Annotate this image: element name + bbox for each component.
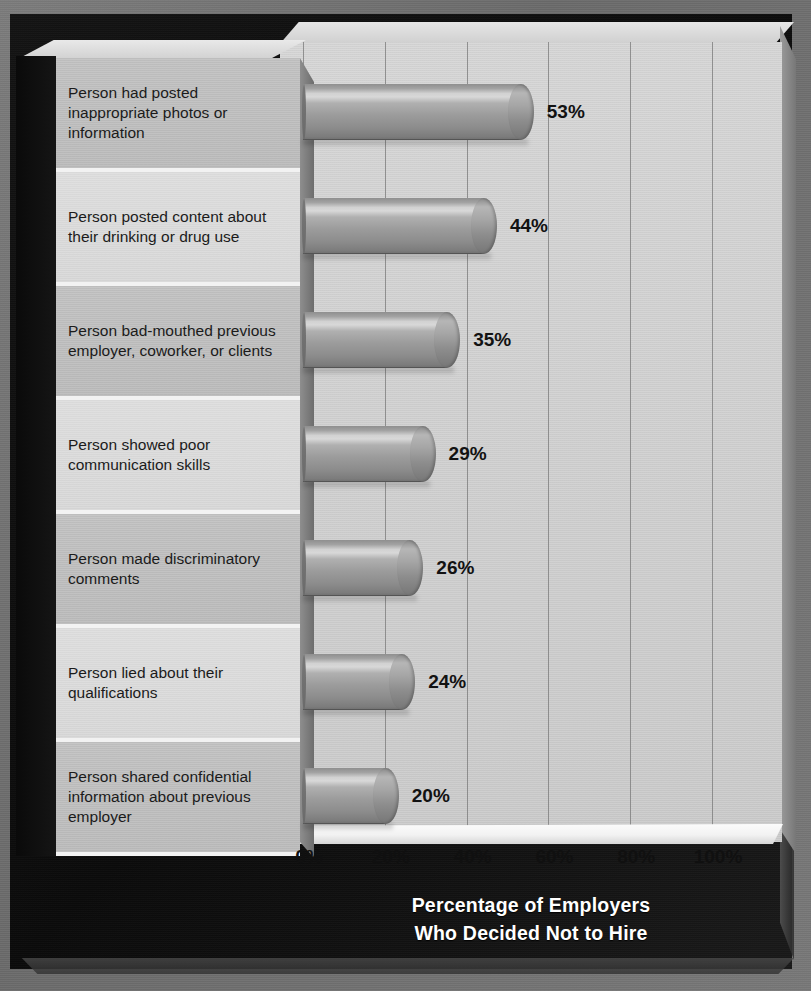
bar — [303, 426, 436, 482]
category-label-row: Person had posted inappropriate photos o… — [56, 58, 300, 172]
category-label-row: Person posted content about their drinki… — [56, 172, 300, 286]
bar — [303, 768, 399, 824]
bar-value-label: 20% — [412, 785, 450, 807]
gridline-100 — [712, 42, 713, 842]
board-bottom-bevel — [14, 958, 794, 974]
bar-body — [303, 654, 402, 710]
x-tick-label: 20% — [372, 846, 410, 868]
x-tick-label: 40% — [454, 846, 492, 868]
x-tick-label: 100% — [694, 846, 743, 868]
category-label-panel: Person had posted inappropriate photos o… — [56, 58, 300, 856]
category-label-row: Person shared confidential information a… — [56, 742, 300, 856]
bar-end-cap — [508, 84, 534, 140]
gridline-80 — [630, 42, 631, 842]
chart-title-line-1: Percentage of Employers — [280, 892, 782, 920]
bar-body — [303, 426, 423, 482]
category-label-text: Person had posted inappropriate photos o… — [68, 83, 290, 143]
bar-left-edge — [302, 426, 306, 482]
category-label-text: Person shared confidential information a… — [68, 767, 290, 827]
chart-title: Percentage of Employers Who Decided Not … — [280, 892, 782, 947]
bar — [303, 654, 415, 710]
bar-left-edge — [302, 540, 306, 596]
bar-left-edge — [302, 654, 306, 710]
bar-end-cap — [389, 654, 415, 710]
bar-body — [303, 198, 484, 254]
bar-value-label: 24% — [428, 671, 466, 693]
bar-left-edge — [302, 312, 306, 368]
bar — [303, 84, 534, 140]
x-tick-label: 80% — [617, 846, 655, 868]
category-label-text: Person showed poor communication skills — [68, 435, 290, 475]
bar-left-edge — [302, 84, 306, 140]
bar-body — [303, 84, 521, 140]
category-label-text: Person posted content about their drinki… — [68, 207, 290, 247]
chart-title-line-2: Who Decided Not to Hire — [280, 920, 782, 948]
x-tick-label: 60% — [535, 846, 573, 868]
category-label-row: Person made discriminatory comments — [56, 514, 300, 628]
bar-body — [303, 540, 410, 596]
category-label-text: Person bad-mouthed previous employer, co… — [68, 321, 290, 361]
bar-end-cap — [397, 540, 423, 596]
bar-end-cap — [410, 426, 436, 482]
plot-top-bevel — [266, 22, 794, 44]
plot-right-bevel — [780, 26, 796, 854]
bar — [303, 198, 497, 254]
bar-value-label: 35% — [473, 329, 511, 351]
category-label-row: Person lied about their qualifications — [56, 628, 300, 742]
bar-left-edge — [302, 768, 306, 824]
bar-value-label: 44% — [510, 215, 548, 237]
bar — [303, 540, 423, 596]
bar-left-edge — [302, 198, 306, 254]
bar — [303, 312, 460, 368]
bar-end-cap — [434, 312, 460, 368]
category-label-row: Person showed poor communication skills — [56, 400, 300, 514]
category-label-text: Person lied about their qualifications — [68, 663, 290, 703]
bar-end-cap — [373, 768, 399, 824]
bar-value-label: 53% — [547, 101, 585, 123]
bar-value-label: 26% — [436, 557, 474, 579]
bar-end-cap — [471, 198, 497, 254]
bar-value-label: 29% — [449, 443, 487, 465]
gridline-60 — [548, 42, 549, 842]
x-tick-label: 0% — [295, 846, 322, 868]
category-label-row: Person bad-mouthed previous employer, co… — [56, 286, 300, 400]
gridline-40 — [467, 42, 468, 842]
bar-body — [303, 312, 447, 368]
label-panel-spine — [16, 56, 56, 856]
category-label-text: Person made discriminatory comments — [68, 549, 290, 589]
label-panel-top-bevel — [16, 40, 306, 60]
